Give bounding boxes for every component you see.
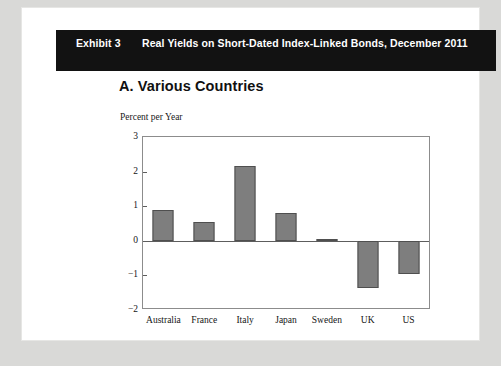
bar-chart: 3210−1−2 AustraliaFranceItalyJapanSweden… xyxy=(120,126,450,341)
exhibit-title: Real Yields on Short-Dated Index-Linked … xyxy=(142,36,482,51)
bar-uk xyxy=(357,241,378,288)
y-axis-tick-mark xyxy=(143,206,147,207)
y-axis-tick-mark xyxy=(143,275,147,276)
x-axis-tick-label: France xyxy=(184,315,225,325)
x-axis-tick-label: Italy xyxy=(225,315,266,325)
bar-slot: France xyxy=(184,137,225,308)
exhibit-header: Exhibit 3 Real Yields on Short-Dated Ind… xyxy=(56,30,496,71)
bar-slot: UK xyxy=(347,137,388,308)
plot-area: AustraliaFranceItalyJapanSwedenUKUS xyxy=(142,136,430,309)
bar-series: AustraliaFranceItalyJapanSwedenUKUS xyxy=(143,137,429,308)
y-axis-tick-label: 0 xyxy=(120,235,138,245)
bar-us xyxy=(398,241,419,274)
bar-japan xyxy=(276,213,297,241)
y-axis-tick-label: 2 xyxy=(120,166,138,176)
y-axis-unit-label: Percent per Year xyxy=(120,112,183,122)
bar-slot: Japan xyxy=(266,137,307,308)
y-axis-tick-label: 3 xyxy=(120,131,138,141)
x-axis-tick-label: UK xyxy=(347,315,388,325)
page-card: Exhibit 3 Real Yields on Short-Dated Ind… xyxy=(22,8,479,340)
panel-heading: A. Various Countries xyxy=(119,78,264,94)
bar-australia xyxy=(153,210,174,241)
x-axis-tick-label: Australia xyxy=(143,315,184,325)
bar-slot: Australia xyxy=(143,137,184,308)
x-axis-tick-label: Sweden xyxy=(306,315,347,325)
y-axis-tick-mark xyxy=(143,172,147,173)
bar-slot: Italy xyxy=(225,137,266,308)
bar-slot: Sweden xyxy=(306,137,347,308)
bar-sweden xyxy=(316,239,337,241)
x-axis-tick-label: US xyxy=(388,315,429,325)
exhibit-number-label: Exhibit 3 xyxy=(76,36,121,51)
bar-slot: US xyxy=(388,137,429,308)
y-axis-tick-label: −1 xyxy=(120,269,138,279)
y-axis-tick-label: −2 xyxy=(120,304,138,314)
y-axis-tick-label: 1 xyxy=(120,200,138,210)
bar-italy xyxy=(235,166,256,241)
x-axis-tick-label: Japan xyxy=(266,315,307,325)
bar-france xyxy=(194,222,215,241)
